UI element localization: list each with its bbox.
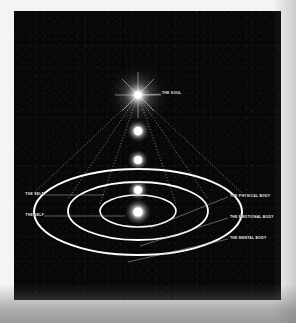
star-core: [135, 92, 142, 99]
label-self-upper: THE SELF: [0, 193, 44, 196]
orb-core-4: [133, 207, 142, 216]
orb-core-3: [134, 186, 142, 194]
label-soul: THE SOUL: [162, 92, 181, 95]
orb-core-2: [134, 156, 142, 164]
figure-canvas: THE SOUL THE SELF THE SELF THE PHYSICAL …: [0, 0, 296, 323]
label-physical-body: THE PHYSICAL BODY: [230, 195, 270, 198]
leader-line-mental-body: [128, 239, 228, 262]
label-emotional-body: THE EMOTIONAL BODY: [230, 216, 274, 219]
leader-line-physical-body: [150, 197, 228, 228]
label-self-lower: THE SELF: [0, 214, 44, 217]
diagram-artwork: [0, 0, 296, 323]
label-mental-body: THE MENTAL BODY: [230, 237, 266, 240]
